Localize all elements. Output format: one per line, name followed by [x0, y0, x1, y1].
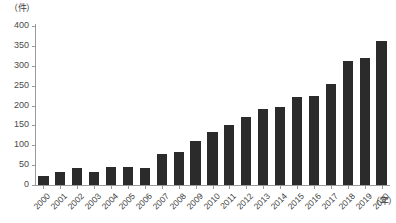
bar	[72, 168, 82, 185]
y-axis-tick-label: 200	[14, 100, 29, 111]
x-axis-tick-mark	[297, 186, 298, 189]
bar-chart: （件） 050100150200250300350400 20002001200…	[0, 0, 396, 223]
bar	[207, 132, 217, 185]
x-axis-tick-mark	[43, 186, 44, 189]
y-axis-tick-label: 150	[14, 119, 29, 130]
bar	[241, 117, 251, 185]
y-axis-tick-label: 100	[14, 139, 29, 150]
x-axis-tick-mark	[179, 186, 180, 189]
x-axis-tick-mark	[365, 186, 366, 189]
bar-series	[35, 26, 390, 185]
y-axis-unit-label: （件）	[9, 3, 35, 14]
x-axis-tick-mark	[246, 186, 247, 189]
x-axis-tick-mark	[77, 186, 78, 189]
bar	[140, 168, 150, 185]
x-axis-tick-mark	[382, 186, 383, 189]
y-axis-tick-label: 0	[24, 179, 29, 190]
bar	[174, 152, 184, 185]
y-axis-tick-label: 400	[14, 20, 29, 31]
x-axis-tick-mark	[128, 186, 129, 189]
bar	[157, 154, 167, 185]
bar	[343, 61, 353, 185]
bar	[89, 172, 99, 186]
bar	[309, 96, 319, 185]
bar	[224, 125, 234, 185]
x-axis-tick-mark	[331, 186, 332, 189]
x-axis-tick-mark	[314, 186, 315, 189]
bar	[258, 109, 268, 185]
x-axis-tick-mark	[145, 186, 146, 189]
bar	[55, 172, 65, 185]
y-axis-tick-label: 250	[14, 80, 29, 91]
bar	[275, 107, 285, 185]
bar	[106, 167, 116, 185]
x-axis-labels: 2000200120022003200420052006200720082009…	[35, 186, 390, 223]
bar	[123, 167, 133, 185]
x-axis-tick-mark	[94, 186, 95, 189]
bar	[326, 84, 336, 185]
y-axis-tick-label: 350	[14, 40, 29, 51]
bar	[292, 97, 302, 185]
y-axis-tick-label: 300	[14, 60, 29, 71]
bar	[376, 41, 386, 185]
bar	[360, 58, 370, 185]
x-axis-tick-mark	[229, 186, 230, 189]
bar	[190, 141, 200, 185]
x-axis-tick-mark	[263, 186, 264, 189]
x-axis-tick-mark	[162, 186, 163, 189]
bar	[38, 176, 48, 185]
x-axis-tick-mark	[60, 186, 61, 189]
x-axis-tick-mark	[280, 186, 281, 189]
y-axis-tick-label: 50	[19, 159, 29, 170]
x-axis-tick-mark	[111, 186, 112, 189]
x-axis-tick-mark	[213, 186, 214, 189]
x-axis-unit-label: （年）	[371, 196, 396, 207]
x-axis-tick-mark	[348, 186, 349, 189]
x-axis-tick-mark	[196, 186, 197, 189]
